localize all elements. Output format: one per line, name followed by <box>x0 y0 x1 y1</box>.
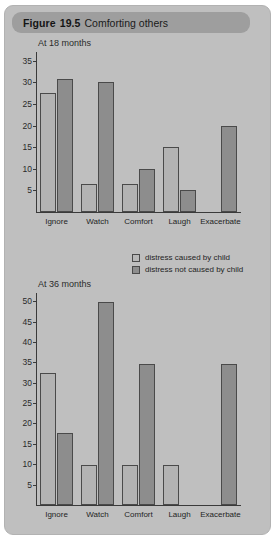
y-axis-tick-label: 15 <box>10 142 32 152</box>
y-axis-tick-mark <box>33 403 36 404</box>
y-axis-tick-mark <box>33 190 36 191</box>
x-axis-label: Ignore <box>45 217 68 226</box>
x-axis-label: Exacerbate <box>200 510 240 519</box>
bar <box>139 169 155 212</box>
x-axis-label: Ignore <box>45 510 68 519</box>
figure-card: Figure 19.5 Comforting others At 18 mont… <box>4 5 271 535</box>
y-axis-tick-mark <box>33 383 36 384</box>
legend-item-not-caused: distress not caused by child <box>132 265 243 274</box>
y-axis-line <box>36 52 37 212</box>
y-axis-tick-mark <box>33 147 36 148</box>
bar <box>57 433 73 505</box>
x-axis-label: Laugh <box>168 510 190 519</box>
bar <box>221 364 237 505</box>
y-axis-tick-label: 35 <box>10 56 32 66</box>
x-axis-label: Comfort <box>124 217 152 226</box>
x-axis-label: Exacerbate <box>200 217 240 226</box>
y-axis-tick-mark <box>33 444 36 445</box>
chart-panel-18-months: At 18 months 5101520253035IgnoreWatchCom… <box>5 36 272 241</box>
y-axis-tick-label: 20 <box>10 121 32 131</box>
plot-area-36-months: 5101520253035404550IgnoreWatchComfortLau… <box>36 293 241 505</box>
y-axis-tick-mark <box>33 342 36 343</box>
y-axis-tick-label: 5 <box>10 480 32 490</box>
y-axis-tick-label: 30 <box>10 77 32 87</box>
x-axis-label: Watch <box>86 510 108 519</box>
y-axis-tick-label: 15 <box>10 439 32 449</box>
y-axis-tick-label: 35 <box>10 357 32 367</box>
y-axis-tick-label: 40 <box>10 337 32 347</box>
x-axis-label: Comfort <box>124 510 152 519</box>
y-axis-tick-mark <box>33 464 36 465</box>
figure-title-bar: Figure 19.5 Comforting others <box>12 12 250 33</box>
bar <box>81 465 97 505</box>
bar <box>122 184 138 212</box>
figure-caption: Comforting others <box>85 17 168 29</box>
legend-label-caused: distress caused by child <box>145 253 230 262</box>
x-axis-line <box>36 505 241 506</box>
figure-number: 19.5 <box>60 17 81 29</box>
bar <box>98 302 114 505</box>
y-axis-tick-mark <box>33 301 36 302</box>
x-axis-label: Watch <box>86 217 108 226</box>
bar <box>163 147 179 212</box>
y-axis-tick-mark <box>33 82 36 83</box>
plot-area-18-months: 5101520253035IgnoreWatchComfortLaughExac… <box>36 52 241 212</box>
bar <box>122 465 138 505</box>
chart-title-18-months: At 18 months <box>38 38 91 48</box>
y-axis-tick-label: 5 <box>10 185 32 195</box>
bar <box>40 373 56 506</box>
bar <box>81 184 97 212</box>
y-axis-tick-label: 30 <box>10 378 32 388</box>
bar <box>163 465 179 505</box>
bar <box>40 93 56 212</box>
y-axis-tick-label: 25 <box>10 99 32 109</box>
legend-label-not-caused: distress not caused by child <box>145 265 243 274</box>
y-axis-tick-mark <box>33 61 36 62</box>
x-axis-label: Laugh <box>168 217 190 226</box>
legend-item-caused: distress caused by child <box>132 253 243 262</box>
figure-label: Figure <box>23 17 56 29</box>
y-axis-tick-mark <box>33 169 36 170</box>
legend-swatch-icon-caused <box>132 254 140 262</box>
y-axis-tick-mark <box>33 485 36 486</box>
y-axis-tick-label: 45 <box>10 317 32 327</box>
chart-panel-36-months: At 36 months 5101520253035404550IgnoreWa… <box>5 277 272 532</box>
bar <box>180 190 196 212</box>
chart-legend: distress caused by child distress not ca… <box>132 253 243 277</box>
y-axis-tick-label: 20 <box>10 418 32 428</box>
y-axis-line <box>36 293 37 505</box>
bar <box>57 79 73 212</box>
legend-swatch-icon-not-caused <box>132 266 140 274</box>
bar <box>98 82 114 212</box>
y-axis-tick-mark <box>33 423 36 424</box>
chart-title-36-months: At 36 months <box>38 279 91 289</box>
y-axis-tick-mark <box>33 126 36 127</box>
y-axis-tick-mark <box>33 362 36 363</box>
y-axis-tick-mark <box>33 322 36 323</box>
y-axis-tick-label: 50 <box>10 296 32 306</box>
y-axis-tick-label: 10 <box>10 164 32 174</box>
bar <box>139 364 155 505</box>
bar <box>221 126 237 212</box>
x-axis-line <box>36 212 241 213</box>
y-axis-tick-label: 25 <box>10 398 32 408</box>
y-axis-tick-label: 10 <box>10 459 32 469</box>
y-axis-tick-mark <box>33 104 36 105</box>
